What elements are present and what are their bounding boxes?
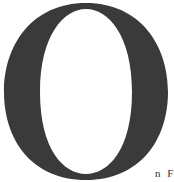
- following-text: n F: [155, 167, 174, 179]
- drop-cap-letter-o: [0, 0, 174, 182]
